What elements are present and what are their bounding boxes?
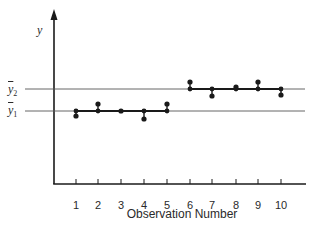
- x-tick-label: 9: [255, 199, 261, 211]
- mean-marker: [188, 87, 193, 92]
- data-point: [255, 79, 260, 84]
- x-axis-label: Observation Number: [127, 207, 238, 221]
- data-point: [118, 108, 123, 113]
- data-point: [187, 79, 192, 84]
- x-tick-label: 1: [73, 199, 79, 211]
- mean-lines: [25, 89, 305, 111]
- data-point: [141, 116, 146, 121]
- y-bar-2-subscript: 2: [13, 89, 17, 98]
- axes: [51, 9, 307, 184]
- mean-marker: [142, 109, 147, 114]
- x-tick-label: 10: [275, 199, 287, 211]
- y-bar-2-label: y2: [8, 82, 17, 98]
- data-points: [73, 79, 283, 121]
- mean-marker: [279, 87, 284, 92]
- y-axis-arrow-icon: [51, 9, 58, 20]
- data-point: [73, 113, 78, 118]
- chart-canvas: [0, 0, 315, 228]
- mean-marker: [256, 87, 261, 92]
- x-tick-label: 2: [95, 199, 101, 211]
- y-bar-1-label: y1: [8, 103, 17, 119]
- mean-marker: [210, 87, 215, 92]
- mean-marker: [165, 109, 170, 114]
- y-axis-label: y: [37, 23, 42, 38]
- data-point: [233, 84, 238, 89]
- data-point: [209, 93, 214, 98]
- y-bar-1-subscript: 1: [13, 110, 17, 119]
- data-point: [95, 101, 100, 106]
- mean-marker: [74, 109, 79, 114]
- data-point: [164, 101, 169, 106]
- data-point: [278, 92, 283, 97]
- x-tick-label: 3: [118, 199, 124, 211]
- mean-marker: [96, 109, 101, 114]
